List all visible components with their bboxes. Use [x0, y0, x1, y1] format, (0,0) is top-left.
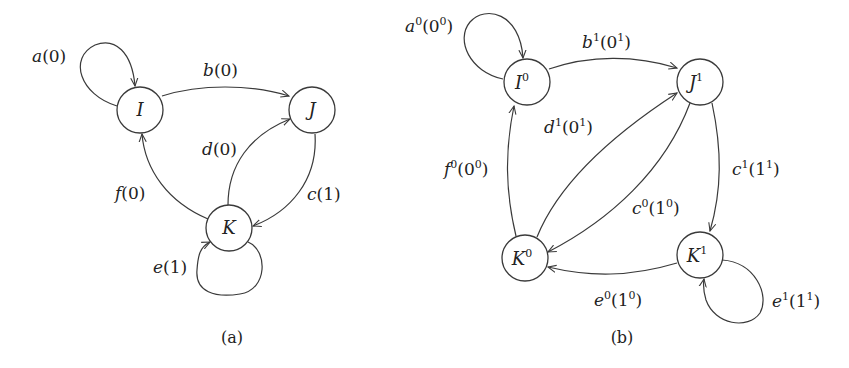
- diagram-b: I0 J1 K0 K1 a0(00) b1(01) c1(11) c0(10) …: [405, 14, 820, 347]
- edge-d-K-to-J: [228, 119, 290, 205]
- label-e0: e0(10): [594, 289, 642, 310]
- label-b1: b1(01): [582, 31, 631, 52]
- node-I: I: [117, 87, 163, 133]
- label-b: b(0): [203, 60, 238, 80]
- state-diagrams: I J K a(0) b(0) c(1) d(0) e(1) f(0) (a): [0, 0, 849, 368]
- edge-c-J-to-K: [253, 134, 315, 226]
- label-c: c(1): [307, 184, 341, 204]
- node-K0: K0: [502, 235, 548, 281]
- label-a: a(0): [32, 46, 66, 66]
- label-e: e(1): [153, 257, 187, 277]
- edge-f0-K0-to-I0: [507, 106, 516, 236]
- label-a0: a0(00): [405, 15, 453, 36]
- edge-b-I-to-J: [162, 87, 289, 96]
- edge-c1-J1-to-K1: [710, 103, 719, 231]
- edge-e0-K1-to-K0: [548, 263, 677, 274]
- label-d1: d1(01): [544, 116, 593, 137]
- label-f0: f0(00): [442, 158, 488, 179]
- node-I0: I0: [504, 59, 550, 105]
- edge-f-K-to-I: [142, 134, 208, 219]
- label-e1: e1(11): [772, 290, 820, 311]
- caption-b: (b): [611, 328, 634, 347]
- edge-b1-I0-to-J1: [549, 58, 677, 69]
- svg-text:I: I: [135, 99, 144, 120]
- node-K: K: [206, 205, 252, 251]
- svg-text:K: K: [221, 217, 237, 238]
- label-c1: c1(11): [732, 158, 780, 179]
- diagram-a: I J K a(0) b(0) c(1) d(0) e(1) f(0) (a): [32, 43, 341, 347]
- label-f: f(0): [113, 183, 145, 203]
- node-K1: K1: [677, 232, 723, 278]
- node-J1: J1: [677, 59, 723, 105]
- caption-a: (a): [221, 328, 243, 347]
- label-d: d(0): [202, 139, 237, 159]
- label-c0: c0(10): [632, 197, 680, 218]
- node-J: J: [289, 87, 335, 133]
